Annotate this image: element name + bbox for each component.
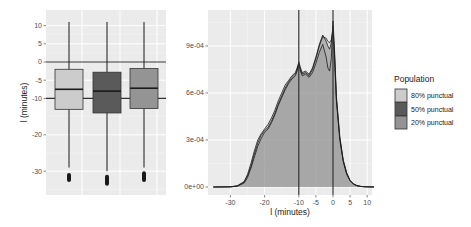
x-tick-label: -10 [294, 199, 304, 206]
y-tick-label: 10 [34, 22, 42, 29]
y-tick-label: 0 [38, 58, 42, 65]
legend-items: 80% punctual50% punctual20% punctual [395, 89, 454, 129]
legend-swatch [395, 103, 407, 116]
y-tick-label: 5 [38, 40, 42, 47]
y-tick-label: 0e+00 [184, 183, 204, 190]
y-tick-label: 9e-04 [186, 42, 204, 49]
y-tick-label: -5 [36, 77, 42, 84]
chart-canvas: 1050-5-10-20-30 l (minutes) 0e+003e-046e… [0, 0, 471, 227]
y-tick-label: -10 [32, 95, 42, 102]
figure: 1050-5-10-20-30 l (minutes) 0e+003e-046e… [0, 0, 471, 227]
legend-swatch [395, 89, 407, 102]
outlier-cluster [142, 171, 146, 182]
outlier-cluster [67, 173, 71, 182]
density-x-axis: -30-20-10-50510 [225, 195, 371, 206]
y-tick-label: -30 [32, 168, 42, 175]
density-y-axis: 0e+003e-046e-049e-04 [184, 42, 208, 190]
x-tick-label: 10 [363, 199, 371, 206]
outlier-cluster [105, 175, 109, 186]
y-tick-label: 3e-04 [186, 136, 204, 143]
legend-label: 50% punctual [411, 106, 454, 114]
boxplot-y-axis: 1050-5-10-20-30 [32, 22, 46, 175]
x-tick-label: -5 [313, 199, 319, 206]
boxplot-panel: 1050-5-10-20-30 l (minutes) [19, 10, 166, 195]
density-panel: 0e+003e-046e-049e-04 -30-20-10-50510 l (… [184, 10, 374, 217]
density-x-axis-title: l (minutes) [270, 207, 310, 217]
x-tick-label: -30 [225, 199, 235, 206]
legend: Population 80% punctual50% punctual20% p… [394, 74, 454, 129]
legend-item: 50% punctual [395, 103, 454, 116]
y-tick-label: -20 [32, 131, 42, 138]
legend-item: 20% punctual [395, 116, 454, 129]
y-tick-label: 6e-04 [186, 89, 204, 96]
legend-swatch [395, 116, 407, 129]
x-tick-label: 0 [331, 199, 335, 206]
legend-label: 80% punctual [411, 92, 454, 100]
x-tick-label: 5 [348, 199, 352, 206]
legend-title: Population [394, 74, 434, 84]
legend-item: 80% punctual [395, 89, 454, 102]
boxplot-y-axis-title: l (minutes) [19, 83, 29, 123]
legend-label: 20% punctual [411, 119, 454, 127]
box-body [93, 72, 121, 113]
x-tick-label: -20 [260, 199, 270, 206]
